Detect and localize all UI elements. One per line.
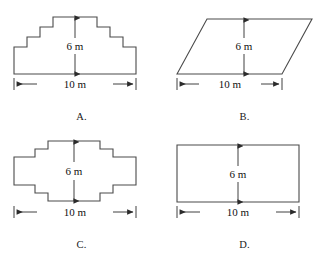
figure-panel-d: 6 m 10 m D. bbox=[163, 128, 326, 256]
choice-label-a: A. bbox=[0, 112, 163, 123]
figure-sheet: 6 m 10 m A. 6 m 10 m B. bbox=[0, 0, 326, 257]
height-label-d: 6 m bbox=[230, 168, 247, 180]
height-label-a: 6 m bbox=[67, 40, 84, 52]
width-label-c: 10 m bbox=[64, 206, 87, 218]
figure-panel-c: 6 m 10 m C. bbox=[0, 128, 163, 256]
figure-panel-b: 6 m 10 m B. bbox=[163, 0, 326, 128]
choice-label-c: C. bbox=[0, 240, 163, 251]
width-label-b: 10 m bbox=[219, 78, 242, 90]
figure-c-svg: 6 m 10 m bbox=[0, 128, 163, 256]
choice-label-d: D. bbox=[163, 240, 326, 251]
choice-label-b: B. bbox=[163, 112, 326, 123]
figure-d-svg: 6 m 10 m bbox=[163, 128, 326, 256]
height-label-b: 6 m bbox=[236, 40, 253, 52]
width-label-d: 10 m bbox=[227, 206, 250, 218]
figure-b-svg: 6 m 10 m bbox=[163, 0, 326, 128]
figure-panel-a: 6 m 10 m A. bbox=[0, 0, 163, 128]
width-label-a: 10 m bbox=[64, 78, 87, 90]
height-label-c: 6 m bbox=[66, 165, 83, 177]
figure-a-svg: 6 m 10 m bbox=[0, 0, 163, 128]
